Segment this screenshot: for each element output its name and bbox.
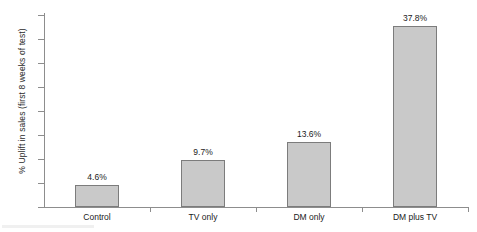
bar-value-label: 4.6% (55, 172, 139, 182)
y-axis-tick-mark (38, 207, 44, 208)
y-axis-tick-mark (38, 135, 44, 136)
bar (181, 160, 225, 207)
bar-value-label: 37.8% (373, 13, 457, 23)
x-axis-tick-mark (468, 207, 469, 212)
y-axis-tick-mark (38, 63, 44, 64)
bar-chart: % Uplift in sales (first 8 weeks of test… (0, 0, 477, 232)
y-axis-tick-mark (38, 39, 44, 40)
x-axis-tick-mark (256, 207, 257, 212)
x-axis-tick-mark (362, 207, 363, 212)
y-axis-tick-mark (38, 183, 44, 184)
y-axis-line (44, 13, 45, 208)
x-axis-tick-mark (150, 207, 151, 212)
y-axis-title: % Uplift in sales (first 8 weeks of test… (17, 6, 27, 196)
x-axis-category-label: DM plus TV (368, 212, 462, 222)
x-axis-category-label: TV only (156, 212, 250, 222)
bar (393, 26, 437, 207)
y-axis-tick-mark (38, 87, 44, 88)
y-axis-tick-mark (38, 15, 44, 16)
y-axis-tick-mark (38, 159, 44, 160)
x-axis-category-label: Control (50, 212, 144, 222)
bar (287, 142, 331, 207)
bar-value-label: 9.7% (161, 147, 245, 157)
bar (75, 185, 119, 207)
bar-value-label: 13.6% (267, 129, 351, 139)
y-axis-tick-mark (38, 111, 44, 112)
x-axis-category-label: DM only (262, 212, 356, 222)
scan-artifact (2, 225, 94, 228)
